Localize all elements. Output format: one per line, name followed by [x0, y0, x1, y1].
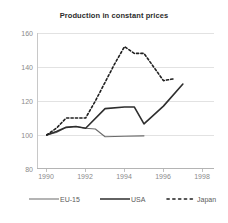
legend-swatch-japan — [166, 194, 196, 204]
legend-item-eu-15[interactable]: EU-15 — [29, 192, 80, 206]
chart-container: Production in constant prices 160 140 12… — [0, 0, 228, 223]
series-line-usa — [47, 84, 183, 135]
x-tick-label: 1998 — [187, 173, 217, 180]
y-tick-label: 160 — [9, 30, 33, 37]
x-tick-label: 1990 — [31, 173, 61, 180]
chart-legend: EU-15 USA Japan — [0, 192, 228, 208]
legend-label-eu-15: EU-15 — [60, 196, 80, 203]
y-tick-label: 100 — [9, 132, 33, 139]
y-tick-label: 120 — [9, 98, 33, 105]
y-tick-label: 140 — [9, 64, 33, 71]
y-axis-tick-labels: 160 140 120 100 80 — [0, 33, 33, 169]
legend-item-usa[interactable]: USA — [100, 192, 145, 206]
legend-label-usa: USA — [131, 196, 145, 203]
x-axis-tick-labels: 1990 1992 1994 1996 1998 — [37, 170, 227, 184]
series-lines — [37, 33, 214, 169]
series-line-eu-15 — [47, 127, 144, 137]
plot-area — [37, 33, 214, 169]
chart-title: Production in constant prices — [0, 11, 228, 20]
x-tick-label: 1994 — [109, 173, 139, 180]
legend-swatch-eu-15 — [29, 194, 59, 204]
legend-label-japan: Japan — [197, 196, 216, 203]
legend-item-japan[interactable]: Japan — [166, 192, 216, 206]
x-tick-label: 1996 — [148, 173, 178, 180]
x-tick-label: 1992 — [70, 173, 100, 180]
series-line-japan — [47, 47, 173, 135]
y-tick-label: 80 — [9, 166, 33, 173]
legend-swatch-usa — [100, 194, 130, 204]
